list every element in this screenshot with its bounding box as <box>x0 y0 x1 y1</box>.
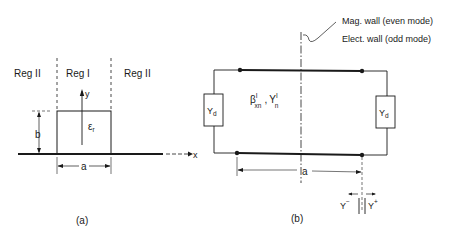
dim-a-arrow-right-icon <box>105 164 111 168</box>
wall-note-leader <box>303 22 336 42</box>
wall-note-line1: Mag. wall (even mode) <box>342 16 433 26</box>
figure-a <box>18 58 193 174</box>
line-params-label: βIxn,YIn <box>250 92 279 109</box>
node-bottom-right <box>360 153 364 157</box>
node-top-right <box>360 69 364 73</box>
dim-a-b-line-right <box>312 171 361 172</box>
dim-b-arrow-up-icon <box>37 112 41 118</box>
y-axis-label: y <box>85 89 90 99</box>
y-minus-arrow-icon <box>348 193 352 196</box>
caption-b: (b) <box>291 213 303 224</box>
permittivity-label: εr <box>88 121 95 133</box>
dim-b-arrow-down-icon <box>37 148 41 154</box>
region-label-left: Reg II <box>14 68 41 79</box>
figure-b <box>204 22 395 214</box>
dim-a-arrow-left-icon <box>58 164 64 168</box>
top-transmission-line <box>240 70 362 71</box>
dim-a-b-label: a <box>302 166 308 177</box>
region-label-center: Reg I <box>66 68 90 79</box>
y-minus-label: Y− <box>340 198 350 211</box>
bottom-transmission-line <box>237 153 362 155</box>
dim-a-label: a <box>81 161 87 172</box>
x-axis-label: x <box>193 150 198 160</box>
dim-a-b-arrow-right-icon <box>356 170 362 174</box>
terminal-nodes <box>235 68 364 157</box>
region-label-right: Reg II <box>124 68 151 79</box>
left-admittance-label: Yd <box>207 106 217 117</box>
diagram-canvas: Reg II Reg I Reg II y x b a εr (a) <box>0 0 465 238</box>
node-top-left <box>238 68 242 72</box>
figure-b-labels: Mag. wall (even mode) Elect. wall (odd m… <box>207 16 433 224</box>
y-plus-arrow-icon <box>372 193 376 196</box>
figure-a-labels: Reg II Reg I Reg II y x b a εr (a) <box>14 68 198 226</box>
caption-a: (a) <box>76 215 88 226</box>
dim-a-b-arrow-left-icon <box>238 168 244 172</box>
dielectric-block <box>57 111 111 154</box>
wall-note-line2: Elect. wall (odd mode) <box>342 34 431 44</box>
y-plus-label: Y+ <box>368 198 378 211</box>
right-admittance-label: Yd <box>379 108 389 119</box>
y-axis-arrow-icon <box>80 89 84 96</box>
dim-b-label: b <box>35 129 41 140</box>
node-bottom-left <box>235 151 239 155</box>
